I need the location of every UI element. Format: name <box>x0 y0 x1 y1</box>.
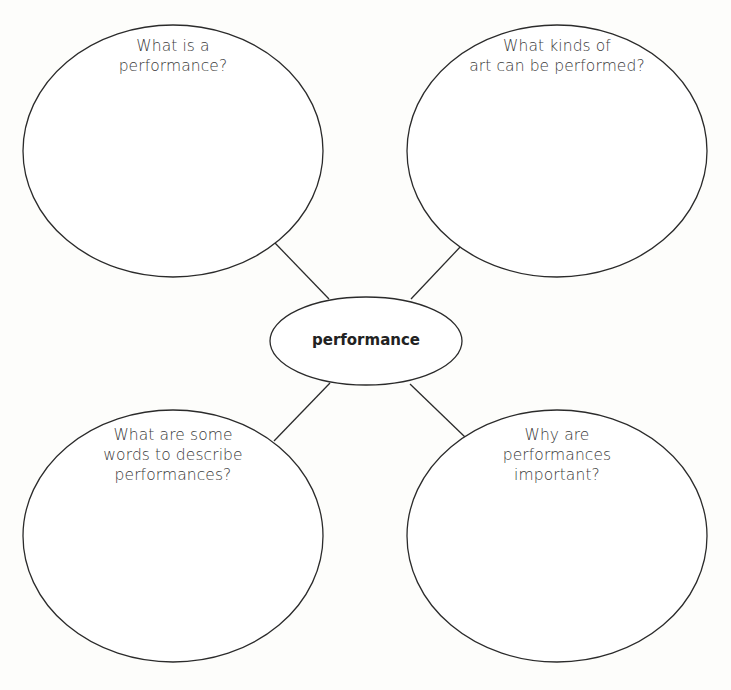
question-line: performance? <box>73 56 273 76</box>
question-line: words to describe <box>73 445 273 465</box>
question-line: What is a <box>73 36 273 56</box>
question-line: Why are <box>467 425 647 445</box>
question-top-right: What kinds of art can be performed? <box>437 36 677 76</box>
question-bottom-left: What are some words to describe performa… <box>73 425 273 485</box>
question-line: performances? <box>73 465 273 485</box>
connector-bottom-left <box>274 383 330 441</box>
connector-bottom-right <box>410 384 465 437</box>
connector-top-left <box>275 243 329 299</box>
question-bottom-right: Why are performances important? <box>467 425 647 485</box>
question-line: performances <box>467 445 647 465</box>
question-top-left: What is a performance? <box>73 36 273 76</box>
connector-top-right <box>411 245 462 299</box>
question-line: important? <box>467 465 647 485</box>
question-line: art can be performed? <box>437 56 677 76</box>
question-line: What kinds of <box>437 36 677 56</box>
question-line: What are some <box>73 425 273 445</box>
center-topic-label: performance <box>286 331 446 349</box>
